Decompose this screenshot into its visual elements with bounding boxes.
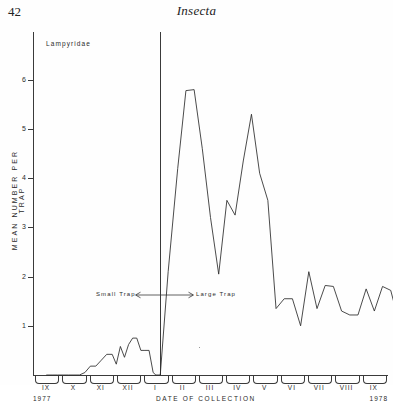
month-label-x-1: X xyxy=(62,384,84,391)
month-label-viii-11: VIII xyxy=(335,384,357,391)
month-label-vii-10: VII xyxy=(308,384,330,391)
annotation-arrow xyxy=(136,292,194,298)
month-label-iii-6: III xyxy=(199,384,221,391)
month-label-ii-5: II xyxy=(172,384,194,391)
plot-svg xyxy=(0,18,393,385)
month-label-ix-0: IX xyxy=(35,384,57,391)
month-label-iv-7: IV xyxy=(226,384,248,391)
x-axis-title: DATE OF COLLECTION xyxy=(156,395,256,402)
print-speck xyxy=(199,347,200,348)
month-label-i-4: I xyxy=(144,384,166,391)
month-label-xii-3: XII xyxy=(117,384,139,391)
data-series-line xyxy=(47,90,393,375)
year-label-end: 1978 xyxy=(370,395,388,402)
month-label-vi-9: VI xyxy=(281,384,303,391)
month-label-v-8: V xyxy=(253,384,275,391)
month-label-ix-12: IX xyxy=(363,384,385,391)
running-head: Insecta xyxy=(0,3,393,19)
year-label-start: 1977 xyxy=(33,395,51,402)
month-label-xi-2: XI xyxy=(90,384,112,391)
figure-lampyridae: Lampyridae MEAN NUMBER PER TRAP 123456 I… xyxy=(0,18,393,385)
